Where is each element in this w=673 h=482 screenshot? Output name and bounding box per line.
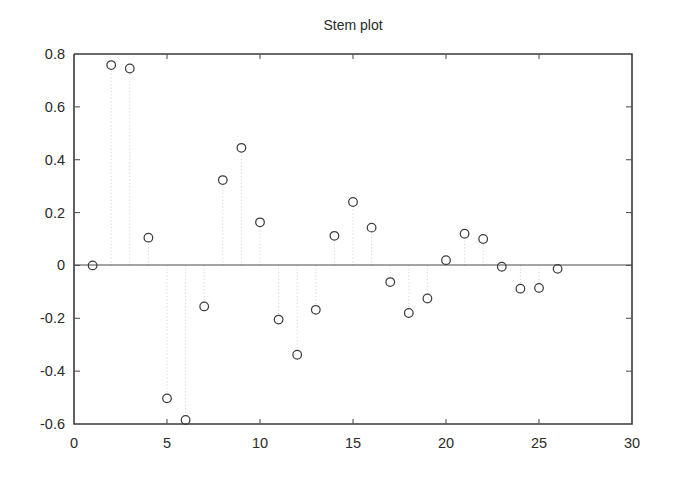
y-tick-label: -0.4 (40, 363, 65, 379)
data-point-marker (200, 302, 209, 311)
data-point-marker (312, 306, 321, 315)
data-point-marker (553, 265, 562, 274)
y-tick-label: 0.2 (45, 205, 65, 221)
y-tick-label: 0.4 (45, 152, 65, 168)
y-tick-label: -0.6 (40, 416, 65, 432)
x-tick-marks (167, 54, 539, 424)
plot-title: Stem plot (323, 17, 382, 33)
x-tick-label: 20 (438, 435, 454, 451)
data-point-marker (107, 61, 116, 70)
data-point-marker (274, 315, 283, 324)
data-point-marker (535, 284, 544, 293)
stem-lines-group (111, 70, 557, 416)
x-tick-label: 10 (252, 435, 268, 451)
x-tick-label: 0 (70, 435, 78, 451)
data-point-marker (367, 223, 376, 232)
data-point-marker (330, 232, 339, 241)
data-point-marker (219, 176, 228, 185)
plot-canvas: 051015202530 -0.6-0.4-0.200.20.40.60.8 S… (0, 0, 673, 482)
x-tick-labels: 051015202530 (70, 435, 640, 451)
data-point-marker (460, 229, 469, 238)
x-tick-label: 30 (624, 435, 640, 451)
y-tick-label: 0.8 (45, 46, 65, 62)
axis-box (74, 54, 632, 424)
data-point-marker (423, 294, 432, 303)
y-tick-marks (74, 107, 632, 371)
y-tick-label: 0 (57, 257, 65, 273)
data-point-marker (126, 64, 135, 73)
data-point-marker (163, 394, 172, 403)
data-point-marker (256, 218, 265, 227)
data-markers-group (88, 61, 562, 425)
data-point-marker (405, 309, 414, 318)
stem-plot-figure: 051015202530 -0.6-0.4-0.200.20.40.60.8 S… (0, 0, 673, 482)
data-point-marker (479, 235, 488, 244)
data-point-marker (181, 416, 190, 425)
data-point-marker (237, 144, 246, 153)
data-point-marker (349, 198, 358, 207)
x-tick-label: 15 (345, 435, 361, 451)
data-point-marker (144, 233, 153, 242)
data-point-marker (293, 350, 302, 359)
y-tick-label: 0.6 (45, 99, 65, 115)
y-tick-label: -0.2 (40, 310, 65, 326)
x-tick-label: 5 (163, 435, 171, 451)
data-point-marker (498, 262, 507, 271)
data-point-marker (516, 284, 525, 293)
y-tick-labels: -0.6-0.4-0.200.20.40.60.8 (40, 46, 65, 432)
data-point-marker (386, 278, 395, 287)
x-tick-label: 25 (531, 435, 547, 451)
data-point-marker (442, 256, 451, 265)
